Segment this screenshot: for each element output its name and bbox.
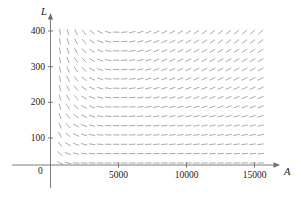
- field-segment: [177, 87, 183, 89]
- field-segment: [234, 59, 239, 62]
- field-segment: [185, 116, 191, 117]
- field-segment: [81, 163, 87, 164]
- field-segment: [241, 115, 247, 117]
- field-segment: [97, 31, 103, 34]
- field-segment: [234, 87, 240, 90]
- field-segment: [161, 68, 167, 70]
- field-segment: [218, 59, 224, 62]
- field-segment: [89, 153, 95, 154]
- field-segment: [145, 106, 151, 107]
- field-segment: [218, 78, 224, 81]
- field-segment: [258, 96, 264, 98]
- field-segment: [129, 107, 135, 108]
- field-segment: [226, 96, 232, 98]
- field-segment: [161, 135, 167, 136]
- field-segment: [81, 144, 87, 145]
- field-segment: [169, 59, 175, 61]
- field-segment: [258, 87, 264, 90]
- field-segment: [153, 125, 159, 126]
- field-segment: [234, 106, 240, 108]
- field-segment: [58, 132, 61, 138]
- field-segment: [250, 40, 255, 44]
- field-segment: [97, 125, 103, 126]
- field-segment: [105, 31, 111, 32]
- field-segment: [74, 48, 77, 54]
- field-segment: [201, 97, 207, 99]
- field-segment: [89, 68, 95, 71]
- field-segment: [241, 134, 247, 135]
- field-segment: [105, 88, 111, 89]
- field-segment: [226, 87, 232, 89]
- field-segment: [59, 104, 61, 110]
- field-segment: [242, 68, 248, 71]
- field-segment: [250, 96, 256, 98]
- field-segment: [258, 77, 264, 80]
- field-segment: [59, 94, 61, 100]
- field-segment: [209, 144, 215, 145]
- field-segment: [129, 78, 135, 79]
- field-segment: [90, 40, 95, 44]
- field-segment: [169, 144, 175, 145]
- field-segment: [97, 144, 103, 145]
- field-segment: [178, 31, 184, 34]
- direction-field-segments: [57, 29, 264, 164]
- y-axis-label: L: [41, 6, 47, 17]
- field-segment: [258, 68, 264, 71]
- field-segment: [201, 115, 207, 117]
- field-segment: [97, 59, 103, 61]
- field-segment: [209, 125, 215, 126]
- field-segment: [137, 97, 143, 98]
- field-segment: [129, 60, 135, 61]
- field-segment: [233, 144, 239, 145]
- field-segment: [210, 78, 216, 81]
- field-segment: [241, 144, 247, 145]
- field-segment: [65, 152, 71, 154]
- field-segment: [177, 106, 183, 108]
- field-segment: [145, 88, 151, 89]
- field-segment: [193, 78, 199, 80]
- field-segment: [201, 153, 207, 154]
- field-segment: [161, 144, 167, 145]
- field-segment: [121, 51, 127, 52]
- field-segment: [59, 85, 60, 91]
- field-segment: [185, 78, 191, 80]
- field-segment: [249, 144, 255, 145]
- field-segment: [161, 125, 167, 126]
- field-segment: [129, 69, 135, 70]
- field-segment: [97, 40, 103, 42]
- field-segment: [81, 86, 86, 90]
- x-tick-label: 15000: [243, 170, 267, 180]
- field-segment: [81, 115, 87, 118]
- field-segment: [129, 41, 135, 42]
- field-segment: [153, 87, 159, 89]
- field-segment: [81, 105, 87, 108]
- field-segment: [225, 115, 231, 117]
- field-segment: [170, 31, 176, 34]
- field-segment: [177, 59, 183, 62]
- field-segment: [169, 87, 175, 89]
- field-segment: [201, 144, 207, 145]
- field-segment: [161, 97, 167, 99]
- field-segment: [121, 32, 127, 33]
- field-segment: [82, 49, 86, 54]
- field-segment: [177, 125, 183, 126]
- field-segment: [161, 31, 167, 34]
- field-segment: [202, 68, 208, 71]
- field-segment: [145, 97, 151, 98]
- field-segment: [242, 49, 247, 53]
- field-segment: [67, 76, 70, 82]
- field-segment: [129, 97, 135, 98]
- field-segment: [217, 96, 223, 98]
- field-segment: [67, 85, 70, 91]
- field-segment: [137, 116, 143, 117]
- field-segment: [193, 97, 199, 99]
- field-segment: [105, 107, 111, 108]
- field-segment: [225, 144, 231, 145]
- field-segment: [161, 106, 167, 107]
- field-segment: [65, 162, 71, 163]
- field-segment: [225, 125, 231, 126]
- field-segment: [169, 135, 175, 136]
- field-segment: [97, 116, 103, 117]
- axes-layer: [12, 13, 280, 188]
- field-segment: [137, 50, 143, 52]
